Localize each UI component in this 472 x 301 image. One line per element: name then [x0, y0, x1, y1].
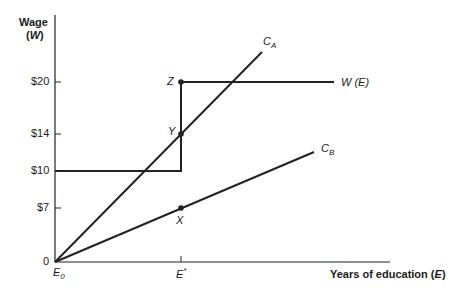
label-y: Y [168, 125, 175, 137]
chart-plot [0, 0, 472, 301]
wage-schedule-line [55, 82, 334, 171]
x-tick-e0: E0 [53, 266, 65, 281]
x-axis-title: Years of education (E) [330, 268, 446, 280]
label-cost-a: CA [263, 35, 276, 50]
y-axis-title: Wage [19, 16, 48, 28]
y-tick-0: 0 [43, 255, 49, 267]
y-tick-20: $20 [31, 75, 49, 87]
point-z [178, 79, 184, 85]
label-z: Z [167, 75, 174, 87]
label-x: X [176, 214, 183, 226]
cost-line-b [55, 152, 314, 262]
y-tick-14: $14 [31, 127, 49, 139]
label-wage-schedule: W (E) [341, 76, 369, 88]
y-tick-10: $10 [31, 164, 49, 176]
label-cost-b: CB [321, 142, 334, 157]
y-tick-7: $7 [37, 201, 49, 213]
x-tick-estar: E* [176, 266, 186, 280]
point-x [178, 205, 184, 211]
point-y [178, 131, 184, 137]
y-axis-variable: (W) [26, 29, 44, 41]
cost-line-a [55, 52, 262, 262]
